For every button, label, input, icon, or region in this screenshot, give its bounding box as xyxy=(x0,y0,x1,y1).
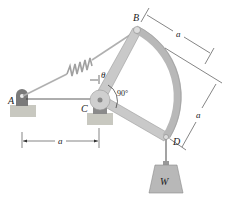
pivot-c-pin xyxy=(98,98,103,103)
mechanism-diagram: A B C D θ 90° W a a a xyxy=(0,0,227,201)
dim-b-ext-right2 xyxy=(205,48,214,64)
label-dim-right: a xyxy=(196,110,201,120)
label-90: 90° xyxy=(117,89,128,98)
ground-a xyxy=(10,105,36,117)
dim-b-ext xyxy=(141,8,149,22)
dim-right-line-2 xyxy=(182,122,196,147)
label-theta: θ xyxy=(101,70,106,80)
spring-coils xyxy=(67,58,92,76)
dim-b-line-2 xyxy=(184,37,210,53)
dim-b-line-1 xyxy=(147,15,173,31)
cable-a-spring xyxy=(23,74,67,96)
dim-right-line-1 xyxy=(202,84,216,108)
pin-d xyxy=(164,135,169,140)
ground-c xyxy=(87,113,113,125)
label-b: B xyxy=(133,12,139,23)
label-dim-b: a xyxy=(176,29,181,39)
label-dim-ac: a xyxy=(58,136,63,146)
pin-b xyxy=(134,27,141,34)
label-d: D xyxy=(172,136,181,147)
label-c: C xyxy=(81,103,88,114)
label-a: A xyxy=(7,95,15,106)
